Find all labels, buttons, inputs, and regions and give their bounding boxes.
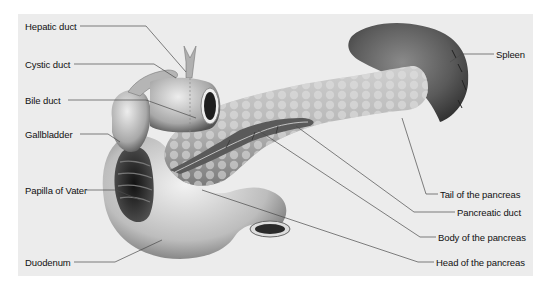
- label-tail-of-pancreas: Tail of the pancreas: [440, 189, 520, 200]
- label-gallbladder: Gallbladder: [25, 129, 73, 140]
- label-cystic-duct: Cystic duct: [25, 59, 70, 70]
- label-spleen: Spleen: [496, 49, 525, 60]
- label-bile-duct: Bile duct: [25, 95, 61, 106]
- label-duodenum: Duodenum: [25, 257, 71, 268]
- label-hepatic-duct: Hepatic duct: [25, 21, 77, 32]
- label-head-of-pancreas: Head of the pancreas: [436, 257, 525, 268]
- label-body-of-pancreas: Body of the pancreas: [438, 232, 526, 243]
- label-papilla-of-vater: Papilla of Vater: [25, 185, 87, 196]
- label-pancreatic-duct: Pancreatic duct: [457, 207, 521, 218]
